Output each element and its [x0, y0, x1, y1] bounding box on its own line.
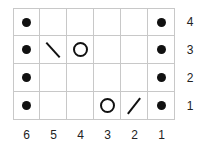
chart-cell [148, 64, 175, 92]
column-label: 6 [13, 128, 40, 142]
purl-dot-icon [22, 18, 31, 27]
purl-dot-icon [157, 73, 166, 82]
chart-cell [148, 8, 175, 36]
chart-cell [67, 8, 94, 36]
chart-cell [40, 92, 67, 120]
purl-dot-icon [22, 101, 31, 110]
chart-cell [148, 92, 175, 120]
chart-cell [148, 36, 175, 64]
row-label: 1 [184, 99, 196, 113]
chart-cell [121, 64, 148, 92]
chart-cell [94, 92, 121, 120]
purl-dot-icon [22, 73, 31, 82]
chart-cell [40, 8, 67, 36]
purl-dot-icon [157, 18, 166, 27]
row-label: 3 [184, 43, 196, 57]
chart-cell [94, 36, 121, 64]
chart-cell [121, 92, 148, 120]
column-label: 2 [121, 128, 148, 142]
column-label: 4 [67, 128, 94, 142]
chart-cell [67, 92, 94, 120]
purl-dot-icon [157, 45, 166, 54]
chart-cell [13, 64, 40, 92]
chart-cell [94, 8, 121, 36]
purl-dot-icon [157, 101, 166, 110]
chart-cell [121, 8, 148, 36]
chart-cell [121, 36, 148, 64]
yarn-over-circle-icon [100, 98, 115, 113]
column-label: 1 [148, 128, 175, 142]
row-label: 2 [184, 71, 196, 85]
chart-cell [94, 64, 121, 92]
purl-dot-icon [22, 45, 31, 54]
chart-cell [13, 8, 40, 36]
chart-cell [13, 36, 40, 64]
chart-cell [67, 64, 94, 92]
chart-cell [67, 36, 94, 64]
chart-cell [13, 92, 40, 120]
column-label: 3 [94, 128, 121, 142]
chart-cell [40, 64, 67, 92]
knitting-chart-grid [13, 8, 175, 120]
row-label: 4 [184, 15, 196, 29]
k2tog-slash-icon [127, 97, 141, 114]
chart-cell [40, 36, 67, 64]
column-label: 5 [40, 128, 67, 142]
ssk-backslash-icon [46, 41, 61, 57]
yarn-over-circle-icon [73, 42, 88, 57]
